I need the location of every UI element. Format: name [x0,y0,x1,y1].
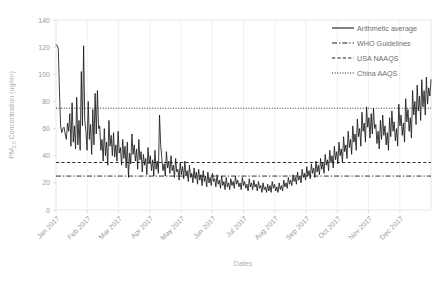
y-tick-label: 20 [42,179,50,186]
y-tick-label: 60 [42,125,50,132]
y-axis-title: PM2.5 Concentration (ug/m³) [8,71,17,158]
x-axis: Jan 2017Feb 2017Mar 2017Apr 2017May 2017… [35,210,404,242]
y-tick-label: 0 [46,207,50,214]
x-tick-label: Oct 2017 [317,215,342,240]
x-tick-label: Sep 2017 [285,215,312,242]
y-axis-title-main: PM [8,148,15,159]
x-tick-label: Apr 2017 [129,215,155,241]
legend-label-china-aaqs: China AAQS [357,69,398,78]
legend-label-arithmetic-average: Arithmetic average [357,24,417,33]
y-axis-title-rest: Concentration (ug/m³) [8,71,16,141]
legend-label-who-guidelines: WHO Guidelines [357,39,411,48]
y-tick-label: 140 [38,17,50,24]
y-tick-label: 80 [42,98,50,105]
x-tick-label: Jul 2017 [225,215,249,239]
y-tick-label: 40 [42,152,50,159]
chart-container: 020406080100120140 Jan 2017Feb 2017Mar 2… [0,0,448,284]
svg-text:PM2.5 Concentration (ug/m³): PM2.5 Concentration (ug/m³) [8,71,17,158]
x-tick-label: Jan 2017 [35,215,60,240]
x-tick-label: Nov 2017 [347,215,373,241]
legend-label-usa-naaqs: USA NAAQS [357,54,399,63]
y-tick-label: 120 [38,44,50,51]
pm25-timeseries-chart: 020406080100120140 Jan 2017Feb 2017Mar 2… [0,0,448,284]
y-axis: 020406080100120140 [38,17,56,214]
x-tick-label: Jun 2017 [192,215,217,240]
x-tick-label: Feb 2017 [66,215,92,241]
x-tick-label: May 2017 [159,215,186,242]
x-tick-label: Mar 2017 [97,215,123,241]
x-tick-label: Aug 2017 [253,215,280,242]
y-tick-label: 100 [38,71,50,78]
x-tick-label: Dec 2017 [378,215,404,241]
x-axis-title: Dates [234,260,253,267]
